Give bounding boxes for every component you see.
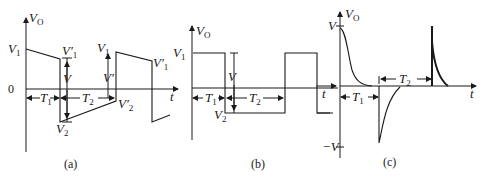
- positive-spike-c: [432, 26, 448, 86]
- v1-label-a: V1: [8, 41, 20, 58]
- v1-label-b: V1: [173, 45, 185, 62]
- panel-b: VO V1 V V2 T1 T2 (b): [173, 23, 330, 171]
- v-label-a: V: [63, 71, 73, 86]
- waveform-figure: VO 0 V1 V′1 V V2 V1 V′ V′2 V′1 T1 T2 (a)…: [0, 0, 481, 178]
- t1-label-c: T1: [352, 89, 364, 106]
- t2-label-c: T2: [399, 71, 411, 88]
- t1-label-a: T1: [40, 90, 52, 107]
- t1-label-b: T1: [205, 90, 217, 107]
- v1prime-label-a: V′1: [62, 43, 77, 60]
- v2prime-label-a: V′2: [118, 96, 133, 113]
- panel-c: VO V −V T1 T2 t (c): [322, 6, 476, 169]
- y-axis-label-a: VO: [29, 10, 44, 27]
- panel-a: VO 0 V1 V′1 V V2 V1 V′ V′2 V′1 T1 T2 (a): [8, 10, 170, 171]
- waveform-a: [26, 49, 170, 122]
- positive-pulse-c: [340, 28, 372, 86]
- t2-label-b: T2: [249, 90, 261, 107]
- vprime-label-a: V′: [103, 70, 114, 85]
- v-label-b: V: [228, 69, 238, 84]
- v1-right-label-a: V1: [97, 40, 109, 57]
- caption-c: (c): [383, 155, 396, 169]
- caption-a: (a): [64, 157, 77, 171]
- x-axis-label-c: t: [470, 86, 474, 101]
- negative-spike-c: [379, 86, 400, 143]
- x-axis-label-a: t: [170, 89, 174, 104]
- y-axis-label-b: VO: [196, 23, 211, 40]
- origin-label-a: 0: [8, 82, 14, 96]
- neg-v-label-c: −V: [322, 139, 341, 154]
- x-axis-label-b: t: [322, 86, 326, 101]
- v1prime-right-label-a: V′1: [153, 55, 168, 72]
- y-axis-label-c: VO: [345, 6, 360, 23]
- t2-label-a: T2: [82, 90, 94, 107]
- caption-b: (b): [251, 157, 265, 171]
- v2-label-a: V2: [56, 121, 68, 138]
